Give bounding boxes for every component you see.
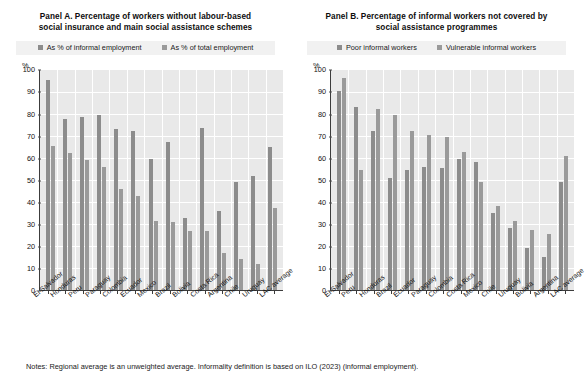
y-tick-label: 30 (27, 221, 35, 228)
panel-b-title-line1: Panel B. Percentage of informal workers … (326, 12, 548, 21)
y-tick-label: 70 (27, 133, 35, 140)
legend-item-a-0[interactable]: As % of informal employment (38, 43, 142, 52)
y-tick-mark (38, 136, 41, 137)
bar (80, 117, 84, 291)
legend-item-a-1[interactable]: As % of total employment (162, 43, 254, 52)
y-tick-mark (329, 180, 332, 181)
bar (251, 176, 255, 290)
bar (457, 159, 461, 290)
legend-swatch-icon (337, 45, 342, 50)
bar-group (93, 70, 110, 290)
panel-b-plot-area (330, 70, 574, 291)
legend-label: As % of total employment (171, 43, 254, 52)
bar (393, 115, 397, 290)
bar (440, 168, 444, 290)
bar (491, 213, 495, 290)
y-tick-label: 50 (318, 177, 326, 184)
bar-group (538, 70, 555, 290)
bar-group (42, 70, 59, 290)
y-tick-mark (329, 202, 332, 203)
panel-b-title-line2: social assistance programmes (376, 23, 498, 32)
bar-group (453, 70, 470, 290)
y-tick-label: 10 (318, 265, 326, 272)
bar-group (247, 70, 264, 290)
bar (63, 119, 67, 290)
legend-swatch-icon (38, 45, 43, 50)
bar-group (435, 70, 452, 290)
y-tick-label: 100 (23, 67, 35, 74)
y-tick-label: 60 (27, 155, 35, 162)
y-tick-mark (38, 224, 41, 225)
panel-b-legend: Poor informal workers Vulnerable informa… (307, 41, 566, 56)
bar-group (384, 70, 401, 290)
panel-a-xlabels: El SalvadorHondurasPeruParaguayColombiaE… (39, 291, 283, 352)
legend-swatch-icon (437, 45, 442, 50)
bar (564, 156, 568, 290)
bar-group (333, 70, 350, 290)
y-tick-label: 30 (318, 221, 326, 228)
y-tick-mark (38, 114, 41, 115)
panel-b-xlabels: El SalvadorPeruHondurasBrazilEcuadorPara… (330, 291, 574, 352)
legend-swatch-icon (162, 45, 167, 50)
y-tick-mark (38, 92, 41, 93)
panel-b-plot-wrap: 0102030405060708090100 (311, 70, 574, 291)
bar-group (76, 70, 93, 290)
bar-group (110, 70, 127, 290)
bar (496, 206, 500, 291)
bar (149, 159, 153, 290)
bar (51, 146, 55, 290)
bar (479, 182, 483, 290)
panel-a-yaxis: 0102030405060708090100 (20, 70, 38, 291)
panel-b-bars (331, 70, 574, 290)
y-tick-mark (329, 70, 332, 71)
bar-group (418, 70, 435, 290)
y-tick-label: 60 (318, 155, 326, 162)
panel-a-title: Panel A. Percentage of workers without l… (0, 0, 291, 34)
y-tick-mark (329, 158, 332, 159)
y-tick-label: 100 (314, 67, 326, 74)
figure-notes: Notes: Regional average is an unweighted… (26, 361, 418, 372)
bar (405, 170, 409, 290)
bar (114, 129, 118, 291)
bar-group (470, 70, 487, 290)
legend-label: Vulnerable informal workers (446, 43, 536, 52)
panel-a-title-line1: Panel A. Percentage of workers without l… (40, 12, 251, 21)
y-tick-label: 90 (27, 89, 35, 96)
y-tick-mark (38, 246, 41, 247)
legend-item-b-1[interactable]: Vulnerable informal workers (437, 43, 536, 52)
bar (85, 160, 89, 290)
bar (102, 167, 106, 290)
bar-group (487, 70, 504, 290)
bar-group (367, 70, 384, 290)
panel-b-axis-unit: % (313, 61, 582, 70)
panel-a-bars (40, 70, 283, 290)
panel-a-title-line2: social insurance and main social assista… (39, 23, 253, 32)
bar (462, 152, 466, 290)
bar-group (350, 70, 367, 290)
bar (354, 107, 358, 291)
y-tick-mark (329, 136, 332, 137)
y-tick-label: 40 (318, 199, 326, 206)
bar (166, 142, 170, 290)
bar-group (144, 70, 161, 290)
legend-label: As % of informal employment (47, 43, 142, 52)
y-tick-mark (329, 246, 332, 247)
y-tick-mark (38, 70, 41, 71)
bar (422, 167, 426, 290)
panel-a-plot-area (39, 70, 283, 291)
bar (376, 109, 380, 290)
y-tick-label: 20 (318, 243, 326, 250)
bar-group (230, 70, 247, 290)
bar (427, 135, 431, 290)
y-tick-mark (38, 269, 41, 270)
bar (371, 131, 375, 290)
bar (171, 222, 175, 290)
bar-group (213, 70, 230, 290)
bar-group (196, 70, 213, 290)
y-tick-mark (38, 180, 41, 181)
bar (131, 131, 135, 290)
bar-group (264, 70, 281, 290)
bar-group (162, 70, 179, 290)
panels-row: Panel A. Percentage of workers without l… (0, 0, 582, 352)
legend-item-b-0[interactable]: Poor informal workers (337, 43, 417, 52)
